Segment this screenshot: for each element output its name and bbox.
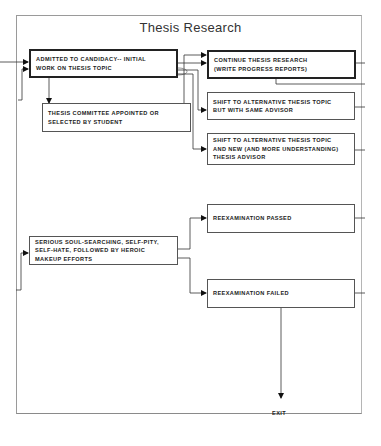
node-admitted-to-candidacy: ADMITTED TO CANDIDACY-- INITIAL WORK ON … <box>29 49 178 78</box>
node-label: REEXAMINATION PASSED <box>208 214 292 223</box>
node-label: THESIS COMMITTEE APPOINTED OR SELECTED B… <box>43 109 159 126</box>
node-label: SHIFT TO ALTERNATIVE THESIS TOPIC BUT WI… <box>208 98 332 115</box>
exit-label: EXIT <box>272 410 286 416</box>
node-reexamination-passed: REEXAMINATION PASSED <box>207 204 355 233</box>
node-reexamination-failed: REEXAMINATION FAILED <box>207 279 355 308</box>
node-label: SHIFT TO ALTERNATIVE THESIS TOPIC AND NE… <box>208 136 339 162</box>
node-continue-thesis-research: CONTINUE THESIS RESEARCH (WRITE PROGRESS… <box>207 50 356 79</box>
node-soul-searching: SERIOUS SOUL-SEARCHING, SELF-PITY, SELF-… <box>29 236 178 265</box>
node-label: CONTINUE THESIS RESEARCH (WRITE PROGRESS… <box>209 56 308 73</box>
node-thesis-committee: THESIS COMMITTEE APPOINTED OR SELECTED B… <box>42 103 191 132</box>
node-shift-same-advisor: SHIFT TO ALTERNATIVE THESIS TOPIC BUT WI… <box>207 92 355 120</box>
node-label: REEXAMINATION FAILED <box>208 289 289 298</box>
node-label: SERIOUS SOUL-SEARCHING, SELF-PITY, SELF-… <box>30 238 159 264</box>
node-shift-new-advisor: SHIFT TO ALTERNATIVE THESIS TOPIC AND NE… <box>207 133 355 165</box>
node-label: ADMITTED TO CANDIDACY-- INITIAL WORK ON … <box>31 55 146 72</box>
